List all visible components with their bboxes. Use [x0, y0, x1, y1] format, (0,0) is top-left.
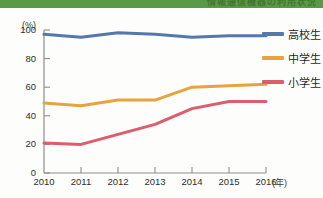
- legend-color-swatch: [262, 32, 284, 36]
- legend-label: 小学生: [288, 74, 321, 90]
- chart-legend: 高校生中学生小学生: [262, 22, 323, 94]
- series-line-高校生: [44, 33, 266, 37]
- legend-item[interactable]: 中学生: [262, 46, 323, 70]
- legend-color-swatch: [262, 56, 284, 60]
- legend-label: 中学生: [288, 50, 321, 66]
- banner-title: 情報通信機器の利用状況: [207, 0, 317, 8]
- x-tick-label: 2014: [175, 176, 209, 187]
- y-tick-label: 60: [10, 81, 36, 92]
- x-tick-label: 2015: [212, 176, 246, 187]
- legend-color-swatch: [262, 80, 284, 84]
- x-axis-ticks: [81, 167, 266, 173]
- data-series-lines: [44, 33, 266, 145]
- y-tick-label: 40: [10, 110, 36, 121]
- x-tick-label: 2010: [27, 176, 61, 187]
- x-tick-label: 2016: [249, 176, 283, 187]
- x-tick-label: 2011: [64, 176, 98, 187]
- y-tick-label: 100: [10, 24, 36, 35]
- header-banner: 情報通信機器の利用状況: [0, 0, 323, 8]
- y-tick-label: 20: [10, 138, 36, 149]
- legend-item[interactable]: 小学生: [262, 70, 323, 94]
- legend-item[interactable]: 高校生: [262, 22, 323, 46]
- y-tick-label: 80: [10, 53, 36, 64]
- chart-screenshot: 情報通信機器の利用状況 (%) (年) 020406080100 2010201…: [0, 0, 323, 198]
- x-tick-label: 2012: [101, 176, 135, 187]
- x-tick-label: 2013: [138, 176, 172, 187]
- series-line-小学生: [44, 102, 266, 145]
- legend-label: 高校生: [288, 26, 321, 42]
